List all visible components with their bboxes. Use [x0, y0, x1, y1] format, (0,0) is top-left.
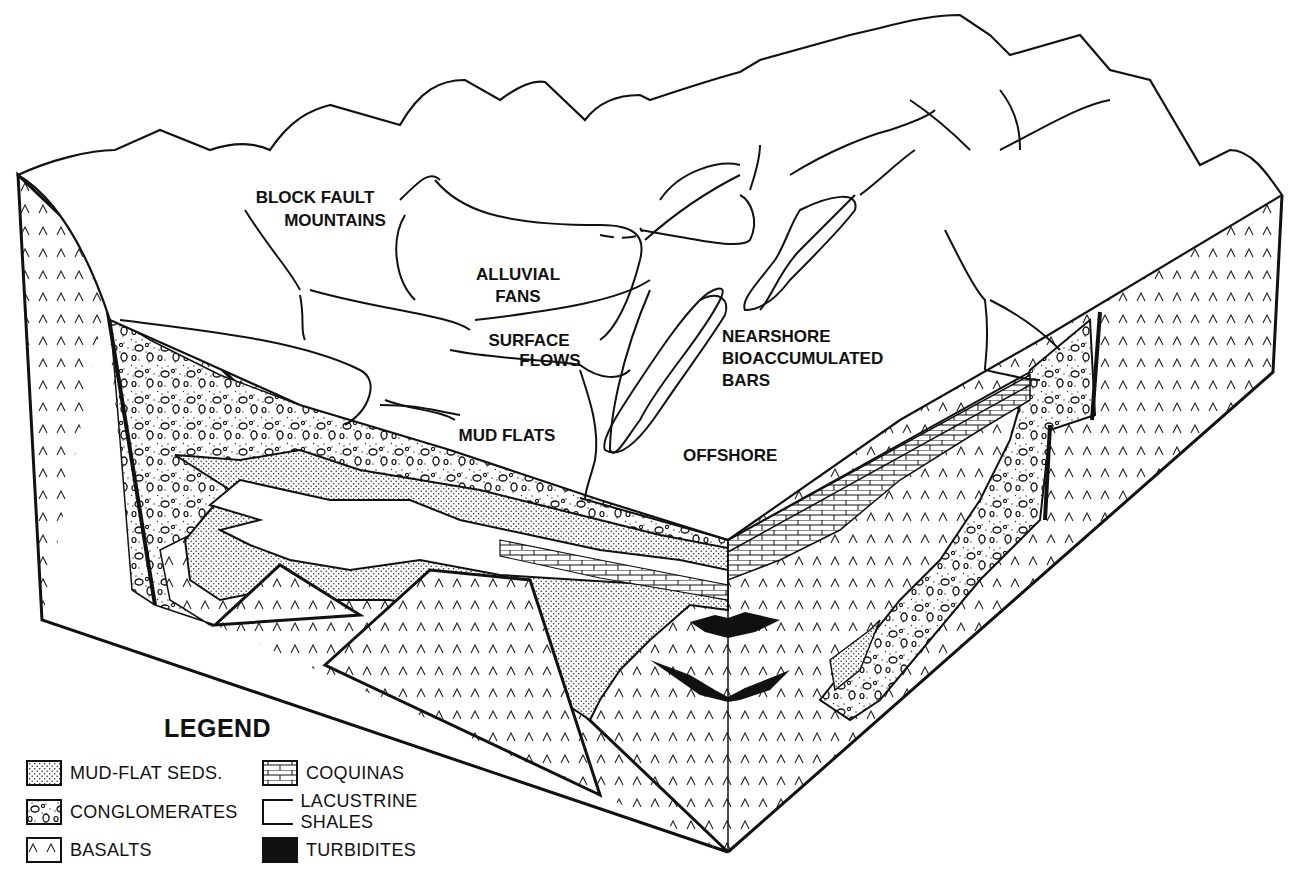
legend-label: BASALTS: [70, 840, 152, 861]
legend-item-lacustrine: LACUSTRINE SHALES: [262, 797, 466, 827]
legend-label: LACUSTRINE SHALES: [301, 791, 466, 833]
legend-label: CONGLOMERATES: [70, 802, 238, 823]
legend-item-coquinas: COQUINAS: [262, 758, 404, 788]
stipple-swatch-icon: [26, 760, 62, 786]
legend-item-basalts: BASALTS: [26, 835, 152, 865]
label-bioaccumulated: BIOACCUMULATED: [722, 349, 883, 368]
label-surface: SURFACE: [488, 331, 569, 350]
label-offshore: OFFSHORE: [683, 446, 777, 465]
caret-swatch-icon: [26, 837, 62, 863]
legend-item-mud-flat: MUD-FLAT SEDS.: [26, 758, 223, 788]
label-alluvial: ALLUVIAL: [476, 265, 560, 284]
label-mountains: MOUNTAINS: [284, 211, 386, 230]
legend: LEGEND MUD-FLAT SEDS. CONGLOMERATES BASA…: [26, 708, 466, 878]
legend-label: COQUINAS: [306, 763, 404, 784]
legend-label: TURBIDITES: [306, 840, 416, 861]
label-fans: FANS: [495, 287, 540, 306]
legend-item-turbidites: TURBIDITES: [262, 835, 416, 865]
label-mud-flats: MUD FLATS: [459, 426, 556, 445]
legend-label: MUD-FLAT SEDS.: [70, 763, 223, 784]
blank-swatch-icon: [262, 799, 293, 825]
label-nearshore: NEARSHORE: [722, 327, 831, 346]
label-bars: BARS: [722, 371, 770, 390]
legend-item-conglomerates: CONGLOMERATES: [26, 797, 238, 827]
solid-swatch-icon: [262, 837, 298, 863]
legend-title: LEGEND: [164, 714, 271, 743]
brick-swatch-icon: [262, 760, 298, 786]
label-block-fault: BLOCK FAULT: [256, 188, 375, 207]
label-flows: FLOWS: [519, 351, 580, 370]
pebble-swatch-icon: [26, 799, 62, 825]
